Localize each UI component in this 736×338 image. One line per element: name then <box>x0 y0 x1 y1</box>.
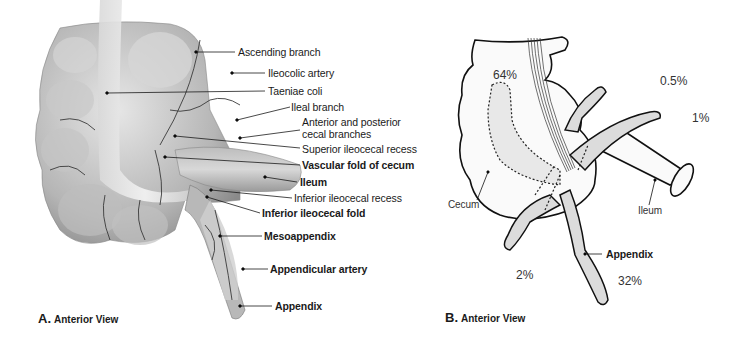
percent-preileal: 0.5% <box>660 74 687 88</box>
label-ileum: Ileum <box>300 176 327 188</box>
label-cecal-branches-line2: cecal branches <box>302 128 371 140</box>
label-appendix-b: Appendix <box>606 248 653 260</box>
label-vascular-fold-of-cecum: Vascular fold of cecum <box>302 159 414 171</box>
appendix-position-diagram <box>420 0 736 338</box>
label-mesoappendix: Mesoappendix <box>264 230 336 242</box>
caption-letter: A. <box>38 311 51 326</box>
panel-a-anterior-view: Ascending branch Ileocolic artery Taenia… <box>0 0 420 338</box>
label-appendicular-artery: Appendicular artery <box>270 263 367 275</box>
caption-panel-a: A.Anterior View <box>38 311 118 326</box>
label-ileocolic-artery: Ileocolic artery <box>268 67 334 79</box>
caption-panel-b: B.Anterior View <box>445 310 525 325</box>
percent-retrocecal: 64% <box>493 68 517 82</box>
label-taeniae-coli: Taeniae coli <box>268 85 322 97</box>
label-superior-ileocecal-recess: Superior ileocecal recess <box>302 143 417 155</box>
caption-text: Anterior View <box>461 313 525 324</box>
caption-text: Anterior View <box>54 314 118 325</box>
caption-letter: B. <box>445 310 458 325</box>
label-ileum-b: Ileum <box>638 205 662 217</box>
label-ascending-branch: Ascending branch <box>238 46 320 58</box>
percent-postileal: 1% <box>692 111 709 125</box>
label-ileal-branch: Ileal branch <box>291 101 344 113</box>
label-cecal-branches-line1: Anterior and posterior <box>302 116 401 128</box>
percent-subcecal: 2% <box>516 268 533 282</box>
panel-b-appendix-positions: Cecum Ileum Appendix 64% 0.5% 1% 2% 32% … <box>420 0 736 338</box>
label-appendix: Appendix <box>275 300 322 312</box>
label-cecum: Cecum <box>448 199 479 211</box>
percent-pelvic: 32% <box>618 274 642 288</box>
label-inferior-ileocecal-recess: Inferior ileocecal recess <box>294 192 402 204</box>
label-inferior-ileocecal-fold: Inferior ileocecal fold <box>262 207 365 219</box>
